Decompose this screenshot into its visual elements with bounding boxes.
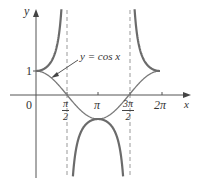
- origin-label: 0: [26, 99, 32, 111]
- y-axis-label: y: [24, 5, 29, 17]
- x-tick-label-pi-half: π 2: [62, 99, 69, 122]
- y-axis-arrow-icon: [33, 9, 39, 17]
- x-axis-label: x: [184, 99, 189, 110]
- y-tick-label-1: 1: [26, 65, 32, 77]
- x-tick-label-two-pi: 2π: [154, 99, 166, 111]
- secant-graph: y x 0 1 y = cos x π 2 π 3π 2 2π: [0, 0, 198, 178]
- denominator: 2: [62, 111, 69, 122]
- annotation-label: y = cos x: [80, 51, 120, 62]
- denominator: 2: [122, 111, 134, 122]
- numerator: 3π: [122, 99, 134, 111]
- x-tick-label-three-pi-half: 3π 2: [122, 99, 134, 122]
- x-tick-label-pi: π: [94, 99, 100, 111]
- plot-area: [0, 0, 198, 178]
- numerator: π: [62, 99, 69, 111]
